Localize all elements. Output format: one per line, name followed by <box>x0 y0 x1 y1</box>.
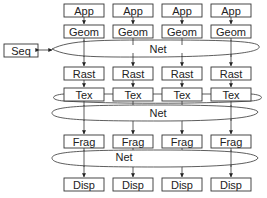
net-2: Net <box>52 105 258 121</box>
tex-label-2: Tex <box>124 89 142 101</box>
row-app: App App App App <box>64 4 251 17</box>
app-label-2: App <box>123 5 143 17</box>
app-label-3: App <box>172 5 192 17</box>
row-frag: Frag Frag Frag Frag <box>64 135 251 148</box>
app-label-1: App <box>74 5 94 17</box>
tex-label-1: Tex <box>75 89 93 101</box>
disp-label-3: Disp <box>171 179 193 191</box>
net-1-label: Net <box>149 43 166 55</box>
frag-label-1: Frag <box>73 136 96 148</box>
net-3: Net <box>52 150 258 167</box>
frag-label-4: Frag <box>220 136 243 148</box>
disp-label-4: Disp <box>220 179 242 191</box>
tex-label-3: Tex <box>173 89 191 101</box>
pipeline-diagram: Net Net Net Seq App App App App Geom Geo… <box>0 0 267 198</box>
geom-label-1: Geom <box>69 26 99 38</box>
geom-label-3: Geom <box>167 26 197 38</box>
disp-label-1: Disp <box>73 179 95 191</box>
rast-label-2: Rast <box>122 68 145 80</box>
net-3-label: Net <box>115 151 132 163</box>
seq-node: Seq <box>4 44 52 57</box>
net-1: Net <box>52 40 259 57</box>
app-label-4: App <box>221 5 241 17</box>
row-rast: Rast Rast Rast Rast <box>64 67 251 80</box>
rast-label-4: Rast <box>220 68 243 80</box>
frag-label-3: Frag <box>171 136 194 148</box>
geom-label-2: Geom <box>118 26 148 38</box>
row-tex: Tex Tex Tex Tex <box>64 88 251 101</box>
seq-label: Seq <box>11 45 31 57</box>
rast-label-1: Rast <box>73 68 96 80</box>
row-disp: Disp Disp Disp Disp <box>64 178 251 191</box>
tex-label-4: Tex <box>222 89 240 101</box>
rast-label-3: Rast <box>171 68 194 80</box>
net-2-label: Net <box>149 107 166 119</box>
frag-label-2: Frag <box>122 136 145 148</box>
disp-label-2: Disp <box>122 179 144 191</box>
geom-label-4: Geom <box>216 26 246 38</box>
row-geom: Geom Geom Geom Geom <box>64 25 251 38</box>
